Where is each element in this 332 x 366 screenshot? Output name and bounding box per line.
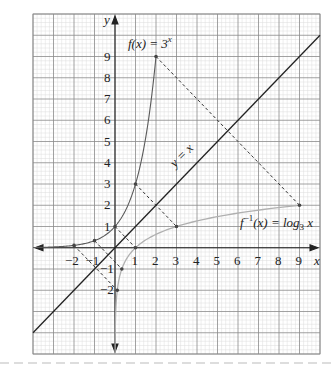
y-tick-label: 5 [104,134,111,149]
data-point [93,239,97,243]
y-tick-label: 7 [104,91,111,106]
y-tick-label: 2 [104,197,111,212]
x-tick-label: −2 [65,253,79,268]
log-label-mid: (x) = log [253,215,300,230]
y-tick-label: 3 [104,176,111,191]
y-tick-label: 8 [104,70,111,85]
x-tick-label: 8 [275,253,282,268]
exp-label-main: f(x) = 3 [128,36,168,51]
x-axis-label: x [313,253,320,268]
exp-label-sup: x [167,34,172,44]
x-tick-label: 1 [132,253,139,268]
log-function-label: f−1(x) = log3 x [240,213,313,232]
data-point [113,225,117,229]
x-tick-label: 3 [173,253,180,268]
x-axis-arrow-right-icon [310,245,318,251]
x-tick-label: −1 [86,253,100,268]
y-tick-label: 9 [104,49,111,64]
y-axis-label: y [102,12,110,27]
data-point [120,267,124,271]
log-label-end: x [304,215,313,230]
data-point [175,225,179,229]
data-point [134,246,138,250]
data-point [298,203,302,207]
log-label-sup: −1 [244,213,254,223]
y-tick-label: 4 [104,155,111,170]
data-point [72,244,76,248]
function-inverse-chart: −2−1123456789−2−1123456789 x y f(x) = 3x… [0,0,332,366]
x-tick-label: 2 [152,253,159,268]
x-tick-label: 5 [214,253,221,268]
exp-function-label: f(x) = 3x [128,34,172,51]
data-point [154,55,158,59]
data-point [134,182,138,186]
x-tick-label: 6 [234,253,241,268]
y-tick-label: 6 [104,112,111,127]
y-tick-label: 1 [104,219,111,234]
y-axis-arrow-up-icon [112,16,118,24]
x-tick-label: 9 [296,253,303,268]
x-tick-label: 7 [255,253,262,268]
data-point [115,288,119,292]
y-tick-label: −1 [100,261,114,276]
x-tick-label: 4 [193,253,200,268]
y-tick-label: −2 [100,282,114,297]
